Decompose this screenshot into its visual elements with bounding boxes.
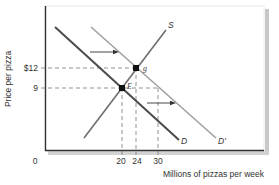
demand-shifted-label: D' [218, 136, 226, 146]
y-axis-label: Price per pizza [3, 51, 13, 107]
x-tick-20: 20 [116, 156, 126, 166]
plot-frame [45, 6, 264, 151]
equilibrium-point-e [119, 85, 125, 91]
x-tick-30: 30 [153, 156, 163, 166]
y-tick-9: 9 [33, 83, 38, 93]
y-tick-12: $12 [24, 63, 38, 73]
frame-shadow-right [265, 9, 269, 155]
point-label-g: g [143, 64, 147, 73]
equilibrium-point-g [133, 65, 139, 71]
supply-demand-chart: g E S D D' $12 9 0 20 24 30 Millions of … [0, 0, 279, 185]
origin-label: 0 [33, 156, 38, 166]
demand-label: D [181, 136, 187, 146]
x-tick-24: 24 [132, 156, 142, 166]
frame-shadow-bottom [48, 151, 269, 155]
point-label-e: E [126, 82, 132, 91]
supply-label: S [168, 20, 174, 30]
x-axis-label: Millions of pizzas per week [163, 169, 265, 179]
